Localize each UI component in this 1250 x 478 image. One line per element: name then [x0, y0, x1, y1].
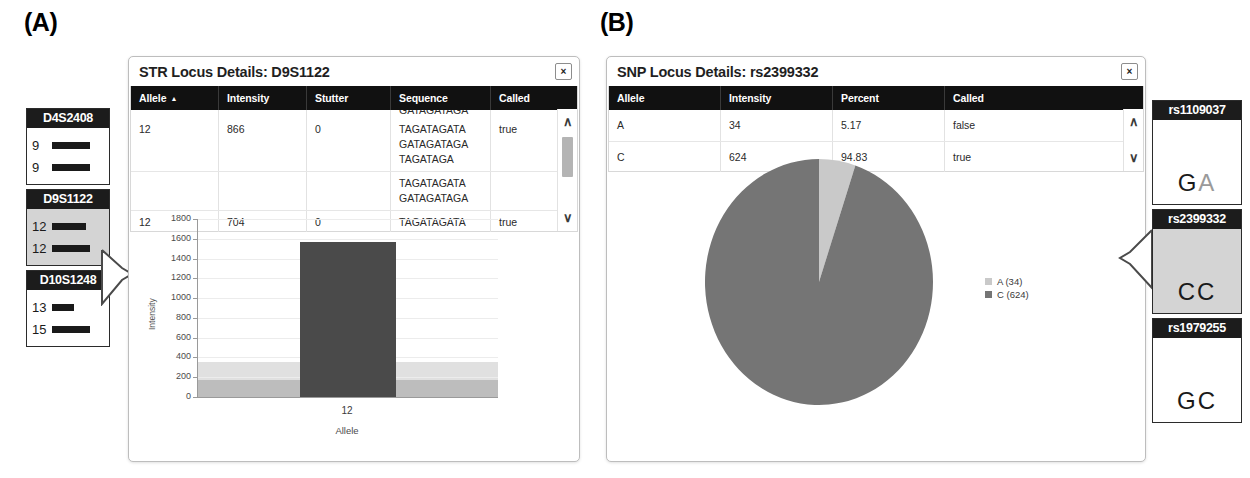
snp-chip-rs1979255[interactable]: rs1979255GC [1152, 318, 1242, 423]
locus-name-label: D9S1122 [27, 190, 109, 209]
y-tick-label: 600 [157, 332, 191, 342]
legend-label: A (34) [997, 275, 1022, 288]
cell-stutter: 0 [307, 118, 391, 171]
allele-number: 9 [32, 160, 52, 175]
cell-called [491, 172, 563, 210]
locus-allele-list: 99 [27, 128, 109, 184]
allele-intensity-bar [52, 245, 90, 252]
str-locus-strip: D4S240899D9S11221212D10S12481315 [26, 108, 110, 351]
column-header-label: Called [953, 92, 984, 104]
y-axis-label: Intensity [147, 298, 157, 330]
legend-item[interactable]: A (34) [985, 275, 1029, 288]
snp-call-area: CC [1153, 229, 1241, 313]
close-icon[interactable]: × [555, 63, 572, 80]
y-tick-mark [193, 318, 197, 319]
scroll-up-icon[interactable]: ∧ [1124, 113, 1143, 131]
pie-svg [703, 157, 935, 407]
y-tick-label: 1400 [157, 253, 191, 263]
sequence-cell-clipped: GATAGATAGA [391, 110, 491, 118]
locus-chip-D10S1248[interactable]: D10S12481315 [26, 270, 110, 347]
column-header-label: Percent [841, 92, 879, 104]
table-row[interactable]: A345.17false [609, 110, 1143, 142]
y-tick-mark [193, 357, 197, 358]
y-tick-mark [193, 397, 197, 398]
snp-name-label: rs1979255 [1153, 319, 1241, 338]
snp-allele-letter: A [1198, 169, 1216, 196]
column-header-sequence[interactable]: Sequence [391, 86, 491, 110]
allele-intensity-bar [52, 304, 74, 311]
cell-sequence: TAGATAGATAGATAGATAGA [391, 172, 491, 210]
table-row[interactable]: TAGATAGATAGATAGATAGA [131, 172, 577, 211]
snp-chip-rs1109037[interactable]: rs1109037GA [1152, 100, 1242, 205]
legend-item[interactable]: C (624) [985, 288, 1029, 301]
snp-table-scrollbar[interactable]: ∧ ∨ [1123, 109, 1143, 171]
sequence-line: GATAGATAGA [399, 191, 490, 206]
scrollbar-thumb[interactable] [562, 137, 573, 177]
column-header-label: Allele [617, 92, 644, 104]
str-table-header-row: Allele▲IntensityStutterSequenceCalled [131, 86, 577, 110]
snp-call-area: GC [1153, 338, 1241, 422]
allele-row: 12 [27, 237, 109, 259]
scroll-down-icon[interactable]: ∨ [1124, 149, 1143, 167]
column-header-stutter[interactable]: Stutter [307, 86, 391, 110]
locus-name-label: D10S1248 [27, 271, 109, 290]
close-icon[interactable]: × [1121, 63, 1138, 80]
intensity-bar-chart: 020040060080010001200140016001800Intensi… [129, 207, 581, 457]
bar-12[interactable] [300, 242, 396, 397]
column-header-label: Intensity [227, 92, 269, 104]
y-tick-mark [193, 259, 197, 260]
allele-row: 12 [27, 215, 109, 237]
sequence-line: GATAGATAGA [399, 137, 490, 152]
column-header-called[interactable]: Called [491, 86, 563, 110]
y-tick-mark [193, 298, 197, 299]
column-header-label: Intensity [729, 92, 771, 104]
allele-row: 9 [27, 156, 109, 178]
column-header-label: Allele [139, 92, 166, 104]
cell-percent: 5.17 [833, 110, 945, 141]
locus-chip-D4S2408[interactable]: D4S240899 [26, 108, 110, 185]
table-row[interactable]: 128660TAGATAGATAGATAGATAGATAGATAGAtrue [131, 118, 577, 172]
column-header-called[interactable]: Called [945, 86, 1085, 110]
snp-chip-rs2399332[interactable]: rs2399332CC [1152, 209, 1242, 314]
snp-name-label: rs2399332 [1153, 210, 1241, 229]
cell-called: true [945, 142, 1085, 172]
allele-row: 13 [27, 296, 109, 318]
legend-label: C (624) [997, 288, 1029, 301]
sequence-line: TAGATAGATA [399, 176, 490, 191]
y-tick-label: 1600 [157, 233, 191, 243]
y-tick-label: 200 [157, 371, 191, 381]
plot-area [197, 219, 498, 398]
allele-pie-chart [703, 157, 943, 407]
allele-number: 9 [32, 138, 52, 153]
column-header-percent[interactable]: Percent [833, 86, 945, 110]
scroll-up-icon[interactable]: ∧ [558, 113, 577, 131]
column-header-allele[interactable]: Allele▲ [131, 86, 219, 110]
pie-chart-legend: A (34)C (624) [985, 275, 1029, 301]
cell-allele: 12 [131, 118, 219, 171]
column-header-label: Sequence [399, 92, 448, 104]
y-tick-label: 1200 [157, 272, 191, 282]
cell-stutter [307, 172, 391, 210]
locus-chip-D9S1122[interactable]: D9S11221212 [26, 189, 110, 266]
cell-intensity [219, 172, 307, 210]
pie-slice-C[interactable] [705, 159, 933, 405]
snp-genotype-call: GC [1177, 387, 1217, 415]
y-tick-label: 1000 [157, 292, 191, 302]
allele-intensity-bar [52, 223, 86, 230]
gridline [198, 239, 498, 240]
allele-number: 12 [32, 241, 52, 256]
column-header-intensity[interactable]: Intensity [219, 86, 307, 110]
column-header-allele[interactable]: Allele [609, 86, 721, 110]
allele-intensity-bar [52, 164, 90, 171]
y-tick-mark [193, 278, 197, 279]
allele-number: 13 [32, 300, 52, 315]
column-header-intensity[interactable]: Intensity [721, 86, 833, 110]
locus-allele-list: 1315 [27, 290, 109, 346]
sort-ascending-icon[interactable]: ▲ [170, 95, 177, 102]
snp-name-label: rs1109037 [1153, 101, 1241, 120]
allele-intensity-bar [52, 142, 90, 149]
snp-table-header-row: AlleleIntensityPercentCalled [609, 86, 1143, 110]
allele-row: 15 [27, 318, 109, 340]
cell-called: false [945, 110, 1085, 141]
snp-allele-letter: C [1178, 278, 1197, 305]
